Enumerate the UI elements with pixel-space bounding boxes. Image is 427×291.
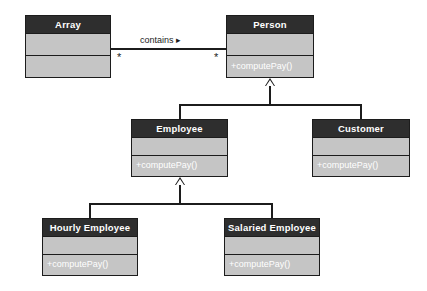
class-methods-array — [26, 56, 110, 76]
class-attributes-hourly-employee — [43, 237, 137, 255]
class-attributes-employee — [132, 138, 227, 156]
class-methods-hourly-employee: +computePay() — [43, 255, 137, 274]
class-name-customer: Customer — [313, 120, 409, 138]
class-name-salaried-employee: Salaried Employee — [225, 219, 319, 237]
inheritance-triangle-to-employee-inner — [176, 179, 184, 185]
class-box-array[interactable]: Array — [25, 15, 111, 78]
multiplicity-person-end: * — [214, 52, 218, 63]
association-line-array-person — [111, 48, 226, 50]
class-box-employee[interactable]: Employee +computePay() — [131, 119, 228, 177]
multiplicity-array-end: * — [117, 52, 121, 63]
class-attributes-salaried-employee — [225, 237, 319, 255]
class-attributes-array — [26, 34, 110, 56]
inheritance-triangle-to-person-inner — [266, 80, 274, 86]
class-name-employee: Employee — [132, 120, 227, 138]
generalization-drop-employee — [179, 104, 181, 120]
class-name-hourly-employee: Hourly Employee — [43, 219, 137, 237]
generalization-drop-salaried — [271, 203, 273, 219]
class-name-person: Person — [227, 16, 313, 34]
generalization-bus-employee — [89, 203, 272, 205]
class-attributes-person — [227, 34, 313, 56]
class-methods-employee: +computePay() — [132, 156, 227, 175]
class-methods-person: +computePay() — [227, 56, 313, 76]
generalization-bus-person — [179, 104, 361, 106]
generalization-stem-employee — [179, 185, 181, 203]
class-box-customer[interactable]: Customer +computePay() — [312, 119, 410, 177]
association-label-contains: contains ▸ — [140, 36, 181, 45]
class-box-hourly-employee[interactable]: Hourly Employee +computePay() — [42, 218, 138, 276]
generalization-drop-customer — [360, 104, 362, 120]
class-box-person[interactable]: Person +computePay() — [226, 15, 314, 78]
class-attributes-customer — [313, 138, 409, 156]
class-box-salaried-employee[interactable]: Salaried Employee +computePay() — [224, 218, 320, 276]
class-methods-salaried-employee: +computePay() — [225, 255, 319, 274]
uml-class-diagram-canvas: contains ▸ * * Array Person +computePay(… — [0, 0, 427, 291]
generalization-stem-person — [269, 86, 271, 104]
class-methods-customer: +computePay() — [313, 156, 409, 175]
generalization-drop-hourly — [89, 203, 91, 219]
class-name-array: Array — [26, 16, 110, 34]
